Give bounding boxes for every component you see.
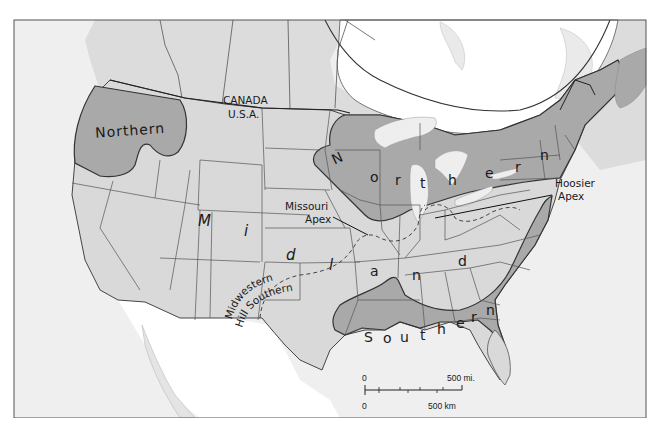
svg-text:h: h <box>448 172 458 188</box>
svg-text:r: r <box>515 159 522 175</box>
svg-text:n: n <box>540 147 550 163</box>
svg-text:S: S <box>364 329 374 345</box>
svg-text:t: t <box>420 327 427 343</box>
canada-label: CANADA <box>223 94 268 106</box>
svg-text:o: o <box>370 169 380 185</box>
scale-top-label: 500 mi. <box>447 373 475 383</box>
svg-text:a: a <box>370 263 380 279</box>
svg-text:o: o <box>383 330 393 346</box>
svg-text:d: d <box>458 253 468 269</box>
svg-text:Missouri: Missouri <box>285 200 328 212</box>
svg-text:u: u <box>400 329 410 345</box>
svg-text:r: r <box>395 172 402 188</box>
svg-text:n: n <box>412 267 422 283</box>
svg-text:n: n <box>486 302 496 318</box>
scale-top-zero: 0 <box>362 373 367 383</box>
svg-text:r: r <box>471 309 478 325</box>
scale-bottom-zero: 0 <box>362 401 367 411</box>
svg-text:Hoosier: Hoosier <box>555 177 596 189</box>
svg-text:M: M <box>198 212 211 230</box>
svg-text:d: d <box>286 246 296 264</box>
svg-text:e: e <box>485 165 495 181</box>
dialect-map: CANADA U.S.A. Northern N o r t h e r n M… <box>0 0 661 430</box>
svg-text:Apex: Apex <box>558 190 584 202</box>
svg-text:h: h <box>437 321 447 337</box>
bottom-margin <box>0 418 661 430</box>
scale-bottom-label: 500 km <box>428 401 456 411</box>
usa-label: U.S.A. <box>228 108 259 120</box>
svg-text:t: t <box>420 175 427 191</box>
svg-text:e: e <box>456 315 466 331</box>
svg-text:Apex: Apex <box>305 213 331 225</box>
